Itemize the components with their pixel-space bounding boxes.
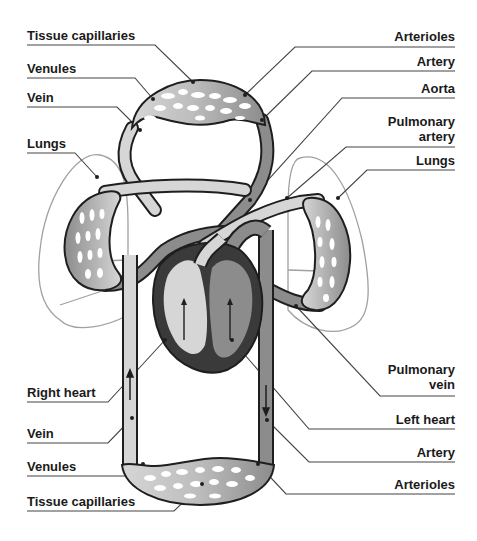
label-pulmonary-artery-line2: artery (419, 129, 455, 144)
label-vein-top: Vein (27, 90, 54, 105)
label-pulmonary-artery-line1: Pulmonary (388, 114, 455, 129)
label-pulmonary-vein-line1: Pulmonary (388, 362, 455, 377)
label-pulmonary-vein-line2: vein (429, 377, 455, 392)
label-artery-bottom: Artery (417, 445, 455, 460)
label-arterioles-top: Arterioles (394, 29, 455, 44)
label-tissue-capillaries-top: Tissue capillaries (27, 28, 135, 43)
label-aorta: Aorta (421, 81, 455, 96)
label-arterioles-bottom: Arterioles (394, 477, 455, 492)
label-lungs-left: Lungs (27, 136, 66, 151)
heart (153, 238, 262, 373)
label-artery-top: Artery (417, 54, 455, 69)
label-tissue-capillaries-bottom: Tissue capillaries (27, 494, 135, 509)
label-venules-bottom: Venules (27, 459, 76, 474)
label-right-heart: Right heart (27, 385, 96, 400)
label-venules-top: Venules (27, 61, 76, 76)
label-left-heart: Left heart (396, 412, 455, 427)
label-lungs-right: Lungs (416, 153, 455, 168)
label-vein-bottom: Vein (27, 426, 54, 441)
